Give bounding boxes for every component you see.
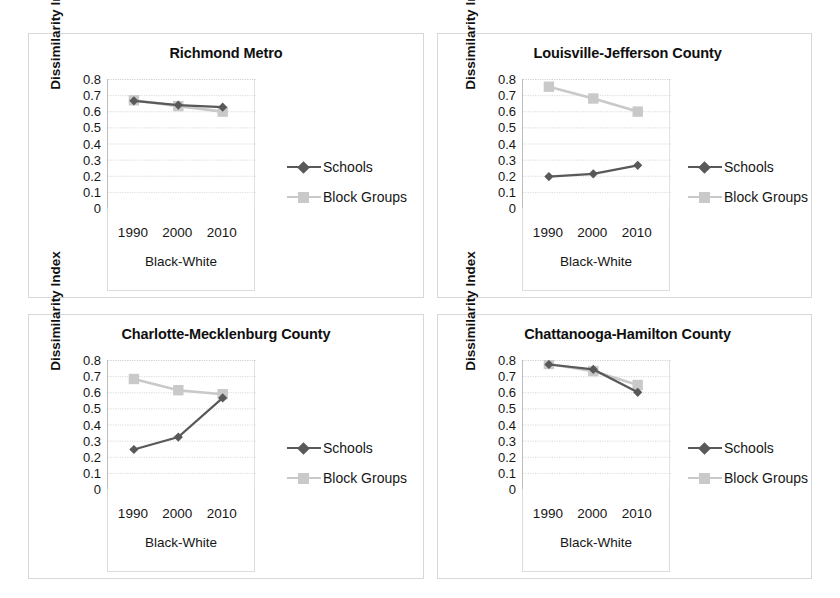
x-axis-tick-label: 1990 [533, 226, 563, 240]
y-axis-tick-label: 0.1 [83, 466, 101, 479]
diamond-marker-icon [287, 160, 321, 174]
y-axis-tick-label: 0.4 [498, 137, 516, 150]
y-axis-title: Dissimilarity Index [463, 245, 479, 377]
x-axis-tick-label: 1990 [118, 226, 148, 240]
multi-panel-chart-figure: Richmond Metro Dissimilarity Index 0.80.… [0, 0, 840, 598]
chart-panel-chattanooga-hamilton-county: Chattanooga-Hamilton County Dissimilarit… [437, 314, 812, 579]
x-axis-tick-label: 2000 [577, 226, 607, 240]
x-axis-tick-labels: 199020002010 [522, 507, 670, 523]
y-axis-tick-label: 0 [94, 483, 101, 496]
y-axis-tick-label: 0.6 [498, 386, 516, 399]
legend-item-block-groups[interactable]: Block Groups [688, 463, 808, 493]
y-axis-title: Dissimilarity Index [463, 0, 479, 96]
panel-title: Louisville-Jefferson County [438, 45, 811, 61]
y-axis-tick-label: 0.5 [83, 402, 101, 415]
legend-item-block-groups[interactable]: Block Groups [287, 463, 407, 493]
y-axis-title: Dissimilarity Index [48, 0, 64, 96]
legend-label-schools: Schools [724, 441, 774, 455]
y-axis-tick-label: 0.8 [83, 73, 101, 86]
y-axis-tick-label: 0.6 [83, 105, 101, 118]
y-axis-tick-labels: 0.80.70.60.50.40.30.20.10 [67, 79, 101, 208]
legend-label-schools: Schools [323, 160, 373, 174]
y-axis-tick-label: 0.1 [83, 185, 101, 198]
x-axis-title: Black-White [145, 535, 217, 550]
x-axis-tick-labels: 199020002010 [107, 226, 255, 242]
y-axis-tick-label: 0.7 [83, 89, 101, 102]
panel-title: Richmond Metro [29, 45, 423, 61]
legend-label-block-groups: Block Groups [724, 471, 808, 485]
y-axis-tick-label: 0.2 [498, 450, 516, 463]
x-axis-label-box [107, 489, 255, 572]
x-axis-tick-label: 1990 [533, 507, 563, 521]
legend-label-block-groups: Block Groups [724, 190, 808, 204]
y-axis-tick-label: 0.1 [498, 466, 516, 479]
legend-label-schools: Schools [323, 441, 373, 455]
legend-label-schools: Schools [724, 160, 774, 174]
y-axis-tick-label: 0.4 [498, 418, 516, 431]
x-axis-tick-label: 2010 [207, 226, 237, 240]
y-axis-tick-label: 0 [509, 202, 516, 215]
square-marker-icon [287, 471, 321, 485]
y-axis-tick-label: 0.4 [83, 418, 101, 431]
y-axis-tick-label: 0.4 [83, 137, 101, 150]
y-axis-tick-label: 0.7 [498, 89, 516, 102]
y-axis-tick-label: 0 [509, 483, 516, 496]
y-axis-tick-label: 0.3 [83, 434, 101, 447]
panel-title: Charlotte-Mecklenburg County [29, 326, 423, 342]
plot-area [522, 360, 670, 489]
legend-item-schools[interactable]: Schools [688, 433, 808, 463]
legend-item-schools[interactable]: Schools [688, 152, 808, 182]
legend-label-block-groups: Block Groups [323, 190, 407, 204]
x-axis-tick-labels: 199020002010 [522, 226, 670, 242]
square-marker-icon [688, 471, 722, 485]
plot-area [107, 360, 255, 489]
diamond-marker-icon [688, 441, 722, 455]
y-axis-tick-label: 0.5 [498, 121, 516, 134]
x-axis-tick-label: 2000 [162, 507, 192, 521]
legend-item-block-groups[interactable]: Block Groups [287, 182, 407, 212]
y-axis-tick-label: 0.5 [498, 402, 516, 415]
legend-item-schools[interactable]: Schools [287, 152, 407, 182]
y-axis-tick-label: 0.6 [83, 386, 101, 399]
x-axis-label-box [522, 208, 670, 291]
y-axis-tick-labels: 0.80.70.60.50.40.30.20.10 [482, 360, 516, 489]
chart-legend: Schools Block Groups [688, 152, 808, 212]
x-axis-title: Black-White [145, 254, 217, 269]
y-axis-tick-label: 0.8 [498, 73, 516, 86]
chart-panel-louisville-jefferson-county: Louisville-Jefferson County Dissimilarit… [437, 33, 812, 298]
x-axis-tick-label: 2000 [577, 507, 607, 521]
chart-panel-richmond-metro: Richmond Metro Dissimilarity Index 0.80.… [28, 33, 424, 298]
chart-legend: Schools Block Groups [287, 152, 407, 212]
legend-item-schools[interactable]: Schools [287, 433, 407, 463]
chart-legend: Schools Block Groups [688, 433, 808, 493]
plot-area [107, 79, 255, 208]
y-axis-tick-label: 0.6 [498, 105, 516, 118]
x-axis-tick-label: 2010 [207, 507, 237, 521]
y-axis-tick-label: 0.7 [498, 370, 516, 383]
y-axis-tick-labels: 0.80.70.60.50.40.30.20.10 [482, 79, 516, 208]
y-axis-tick-label: 0.7 [83, 370, 101, 383]
y-axis-title: Dissimilarity Index [48, 245, 64, 377]
legend-label-block-groups: Block Groups [323, 471, 407, 485]
plot-area [522, 79, 670, 208]
x-axis-title: Black-White [560, 535, 632, 550]
chart-panel-charlotte-mecklenburg-county: Charlotte-Mecklenburg County Dissimilari… [28, 314, 424, 579]
legend-item-block-groups[interactable]: Block Groups [688, 182, 808, 212]
panel-title: Chattanooga-Hamilton County [438, 326, 811, 342]
x-axis-tick-labels: 199020002010 [107, 507, 255, 523]
y-axis-tick-label: 0.2 [498, 169, 516, 182]
y-axis-tick-label: 0.3 [498, 434, 516, 447]
y-axis-tick-label: 0 [94, 202, 101, 215]
x-axis-title: Black-White [560, 254, 632, 269]
x-axis-label-box [522, 489, 670, 572]
x-axis-label-box [107, 208, 255, 291]
square-marker-icon [688, 190, 722, 204]
y-axis-tick-label: 0.5 [83, 121, 101, 134]
y-axis-tick-label: 0.8 [83, 354, 101, 367]
y-axis-tick-label: 0.3 [83, 153, 101, 166]
y-axis-tick-label: 0.2 [83, 169, 101, 182]
x-axis-tick-label: 2010 [622, 507, 652, 521]
y-axis-tick-label: 0.3 [498, 153, 516, 166]
y-axis-tick-label: 0.1 [498, 185, 516, 198]
y-axis-tick-label: 0.2 [83, 450, 101, 463]
